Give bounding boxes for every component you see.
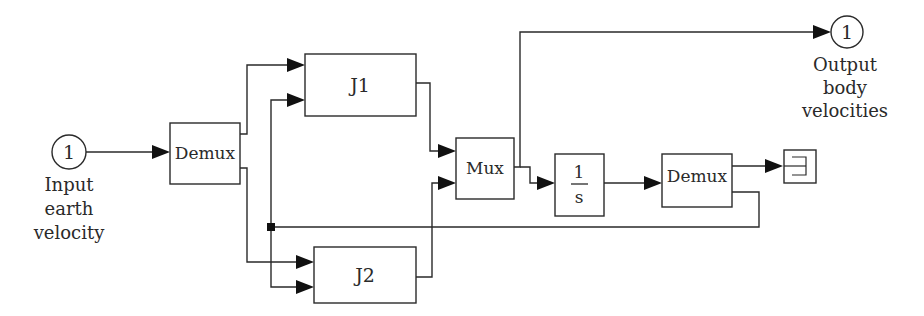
integrator-numerator: 1 — [574, 162, 585, 182]
integrator-block[interactable]: 1 s — [555, 154, 604, 216]
arrow-icon — [644, 176, 662, 190]
branch-point — [267, 223, 275, 231]
wire-mux-to-output — [514, 32, 819, 167]
input-port-label-line: Input — [44, 174, 94, 195]
output-port-label-line: velocities — [801, 100, 888, 121]
arrow-icon — [296, 255, 314, 269]
arrow-icon — [296, 280, 314, 294]
arrow-icon — [287, 93, 305, 107]
output-port-label-line: Output — [813, 54, 878, 75]
arrow-icon — [287, 58, 305, 72]
mux-block[interactable]: Mux — [456, 138, 514, 199]
demux2-label: Demux — [667, 166, 728, 186]
integrator-denominator: s — [575, 187, 584, 207]
j2-label: J2 — [353, 264, 375, 286]
input-port[interactable]: 1 Input earth velocity — [33, 135, 105, 243]
j1-label: J1 — [348, 74, 370, 96]
block-diagram-canvas: 1 Input earth velocity Demux J1 J2 Mux 1… — [0, 0, 924, 316]
input-port-label-line: velocity — [33, 222, 105, 243]
input-port-number: 1 — [63, 141, 75, 163]
arrow-icon — [765, 159, 783, 173]
output-port-label-line: body — [823, 77, 868, 98]
arrow-icon — [438, 144, 456, 158]
arrow-icon — [813, 25, 831, 39]
arrow-icon — [537, 176, 555, 190]
demux1-label: Demux — [175, 143, 236, 163]
input-port-label-line: earth — [45, 198, 94, 219]
demux2-block[interactable]: Demux — [662, 154, 732, 207]
arrow-icon — [438, 176, 456, 190]
j1-block[interactable]: J1 — [305, 54, 416, 116]
demux1-block[interactable]: Demux — [170, 123, 240, 184]
mux-label: Mux — [466, 158, 504, 178]
arrow-icon — [152, 145, 170, 159]
wire-j2-to-mux — [416, 183, 444, 277]
wire-j1-to-mux — [416, 83, 444, 151]
terminator-block[interactable] — [784, 150, 816, 183]
j2-block[interactable]: J2 — [314, 247, 416, 303]
output-port-number: 1 — [841, 21, 853, 43]
